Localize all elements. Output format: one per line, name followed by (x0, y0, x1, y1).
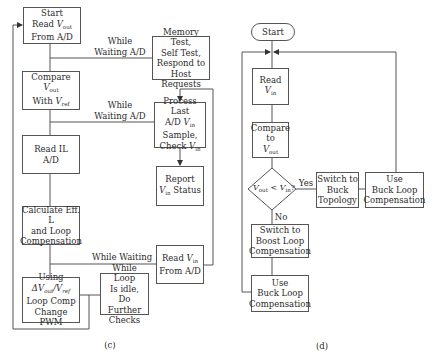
compare-vout-vref-box: Compare Vout With Vref (22, 71, 80, 110)
box-text: Read IL (34, 144, 68, 155)
subscript: out (50, 87, 59, 93)
subscript: out (44, 288, 53, 294)
box-text: With (33, 96, 56, 106)
label-text: Waiting A/D (88, 111, 152, 122)
box-text: Compensation (249, 299, 311, 310)
var-symbol: ΔV (32, 283, 44, 293)
box-text: Switch to (317, 174, 358, 185)
box-text: Status (171, 185, 201, 195)
while-waiting-label-1: While Waiting A/D (88, 36, 152, 57)
box-text: Using (23, 272, 79, 283)
box-text: Change PWM (23, 307, 79, 328)
label-text: Waiting A/D (88, 47, 152, 58)
operator: < (268, 183, 280, 192)
switch-to-buck-box: Switch to Buck Topology (316, 172, 359, 208)
box-text: Loop Comp (23, 296, 79, 307)
box-text: Compensation (249, 246, 311, 257)
process-last-sample-box: Process Last A/D Vin Sample, Check Vin (154, 102, 206, 148)
box-text: Memory Test, (153, 27, 209, 48)
box-text: Topology (317, 195, 358, 206)
var-symbol: /V (53, 283, 62, 293)
report-vin-status-box: Report Vin Status (156, 166, 204, 206)
decision-vout-lt-vin: Vout < Vin? (253, 183, 295, 193)
box-text: Calculate Eff. L (20, 205, 82, 226)
box-text: Compensation (364, 195, 426, 206)
subscript: in (195, 146, 200, 152)
use-buck-loop-bottom-box: Use Buck Loop Compensation (251, 275, 309, 312)
box-text: Read (162, 253, 187, 263)
subscript: in (193, 258, 198, 264)
box-text: A/D (165, 117, 184, 127)
flowchart-figure: Start Read Vout From A/D Compare Vout Wi… (0, 0, 434, 354)
while-waiting-label-2: While Waiting A/D (88, 100, 152, 121)
start-read-vout-box: Start Read Vout From A/D (23, 7, 81, 44)
box-text: Use (249, 278, 311, 289)
box-text: Compare (31, 72, 70, 82)
box-text: From A/D (31, 32, 73, 43)
box-text: Compare (251, 123, 290, 134)
box-text: Report (159, 174, 201, 185)
read-il-box: Read IL A/D (22, 135, 80, 174)
box-text: Boost Loop (249, 236, 311, 247)
box-text: Buck (317, 185, 358, 196)
box-text: From A/D (159, 266, 201, 277)
box-text: and Loop (20, 226, 82, 237)
box-text: Checks (101, 315, 148, 326)
box-text: Self Test, (153, 48, 209, 59)
box-text: Use (364, 174, 426, 185)
box-text: Host Requests (153, 69, 209, 90)
label-text: While (88, 36, 152, 47)
box-text: Buck Loop (364, 185, 426, 196)
caption-c: (c) (100, 340, 120, 351)
box-text: While Loop (101, 263, 148, 284)
caption-d: (d) (312, 341, 332, 352)
switch-to-boost-box: Switch to Boost Loop Compensation (251, 224, 309, 258)
box-text: to (251, 133, 290, 144)
subscript: in (271, 90, 276, 96)
use-buck-loop-right-box: Use Buck Loop Compensation (365, 172, 424, 208)
memory-test-box: Memory Test, Self Test, Respond to Host … (152, 36, 210, 80)
box-text: Start (262, 27, 284, 38)
subscript: ref (62, 288, 70, 294)
subscript: out (259, 187, 268, 193)
box-text: ? (291, 183, 295, 192)
box-text: Compensation (20, 236, 82, 247)
subscript: ref (62, 101, 70, 107)
read-vin-from-ad-box: Read Vin From A/D (156, 245, 204, 284)
box-text: Buck Loop (249, 288, 311, 299)
box-text: Start (31, 8, 73, 19)
box-text: Switch to (249, 225, 311, 236)
box-text: Check (159, 141, 189, 151)
while-loop-idle-box: While Loop Is idle, Do Further Checks (100, 273, 149, 315)
box-text: Process Last (155, 96, 205, 117)
box-text: Do Further (101, 294, 148, 315)
box-text: Is idle, (101, 284, 148, 295)
box-text: Read (260, 75, 282, 85)
label-text: While (88, 100, 152, 111)
read-vin-box: Read Vin (252, 68, 289, 105)
compare-to-vout-box: Compare to Vout (252, 122, 289, 158)
box-text: Read (32, 19, 57, 29)
while-waiting-label-3: While Waiting (90, 252, 154, 263)
subscript: out (269, 149, 278, 155)
yes-label: Yes (298, 178, 314, 189)
box-text: Sample, (155, 130, 205, 141)
calculate-eff-l-box: Calculate Eff. L and Loop Compensation (22, 206, 80, 245)
start-terminal: Start (251, 23, 295, 41)
subscript: in (190, 122, 195, 128)
subscript: out (63, 24, 72, 30)
no-label: No (274, 212, 288, 223)
using-change-pwm-box: Using ΔVout/Vref Loop Comp Change PWM (22, 277, 80, 323)
box-text: Respond to (153, 58, 209, 69)
box-text: A/D (34, 155, 68, 166)
